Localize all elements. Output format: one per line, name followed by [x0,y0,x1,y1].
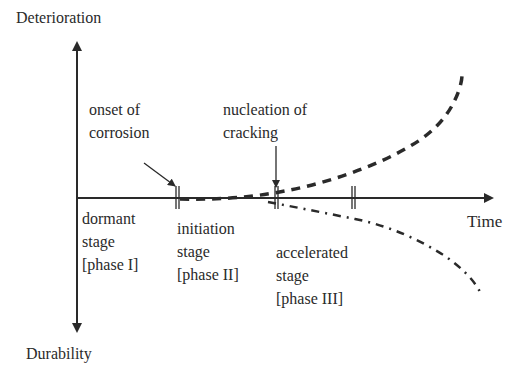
stage-label-initiation: initiation stage [phase II] [177,217,239,286]
onset-arrow [144,163,175,186]
onset-of-corrosion-label: onset of corrosion [89,98,149,144]
stage-label-accelerated: accelerated stage [phase III] [276,241,348,310]
x-axis-label: Time [467,210,502,233]
y-axis-down-label: Durability [26,342,92,365]
y-axis-up-label: Deterioration [16,6,101,29]
stage-label-dormant: dormant stage [phase I] [82,207,138,276]
deterioration-durability-diagram [0,0,527,390]
nucleation-of-cracking-label: nucleation of cracking [223,98,307,144]
